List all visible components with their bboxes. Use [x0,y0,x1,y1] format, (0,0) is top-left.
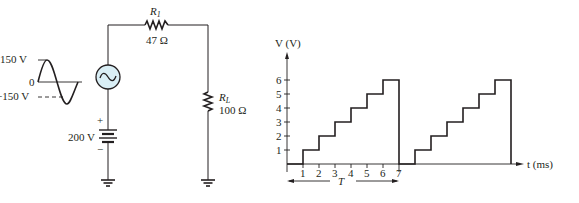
rl-resistor-icon [204,92,212,111]
r1-name-label: R1 [149,5,161,19]
figure: 150 V 0 −150 V + 200 V − R1 47 Ω RL 100 … [0,0,579,203]
y-tick-label-5: 5 [276,88,282,100]
ground-icon-right [201,180,215,186]
r1-resistor-icon [145,21,168,29]
x-tick-label-1: 1 [300,167,306,179]
y-tick-label-2: 2 [276,130,282,142]
ac-zero-label: 0 [29,76,35,88]
y-axis-label: V (V) [275,37,301,50]
r1-subscript: 1 [157,10,161,19]
y-tick-label-3: 3 [276,116,282,128]
ac-waveform-illustration [38,60,82,104]
x-axis-label: t (ms) [527,158,553,171]
ac-trough-label: −150 V [0,90,29,102]
ac-peak-label: 150 V [0,53,27,65]
y-tick-label-6: 6 [276,74,282,86]
x-tick-label-7: 7 [396,167,402,179]
r1-value-label: 47 Ω [146,34,168,46]
staircase-chart [284,52,524,183]
rl-name-label: RL [218,91,231,105]
circuit [38,21,215,186]
x-tick-label-2: 2 [316,167,322,179]
battery-plus-label: + [97,114,103,126]
period-arrowhead-left-icon [287,179,294,183]
x-tick-label-5: 5 [364,167,370,179]
battery-icon [99,130,117,142]
rl-value-label: 100 Ω [219,104,246,116]
period-arrowhead-right-icon [392,179,399,183]
y-tick-label-4: 4 [276,102,282,114]
x-axis-arrow-icon [516,162,524,166]
x-tick-label-6: 6 [380,167,386,179]
staircase-waveform [287,80,511,164]
y-axis-arrow-icon [285,52,289,59]
period-label: T [338,175,345,187]
battery-voltage-label: 200 V [68,131,95,143]
ground-icon-left [101,180,115,186]
x-tick-label-4: 4 [348,167,354,179]
y-tick-label-1: 1 [276,144,282,156]
battery-minus-label: − [97,143,103,155]
